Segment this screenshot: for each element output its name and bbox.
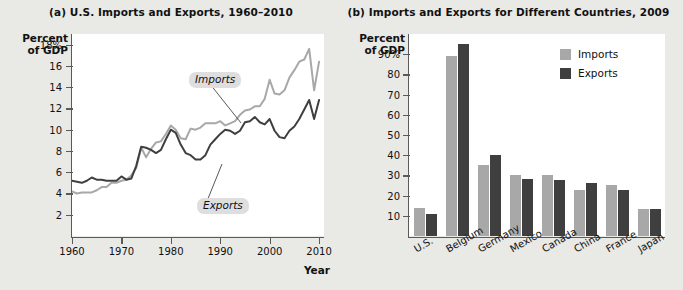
bar-exports-canada (554, 180, 565, 236)
panel-b-y-tick-label: 40 (348, 150, 400, 161)
bar-exports-china (586, 183, 597, 236)
panel-b-y-tick-label: 60 (348, 109, 400, 120)
panel-a-y-tick-label: 6 (14, 167, 62, 178)
panel-a-x-axis-line (71, 237, 324, 238)
panel-a-x-tick (270, 237, 271, 244)
panel-a-x-tick-label: 1960 (59, 246, 84, 257)
panel-a-y-tick-label: 10 (14, 124, 62, 135)
callout-exports: Exports (197, 198, 249, 214)
panel-b-y-tick (403, 54, 410, 55)
panel-a-x-tick-label: 1990 (208, 246, 233, 257)
panel-b-y-tick-label: 20 (348, 190, 400, 201)
panel-a-y-tick-label: 4 (14, 188, 62, 199)
legend-item-exports: Exports (560, 67, 618, 79)
panel-b-y-tick (403, 135, 410, 136)
panel-b-legend: ImportsExports (560, 48, 618, 86)
panel-b-y-tick-label: 30 (348, 170, 400, 181)
bar-exports-belgium (458, 44, 469, 236)
panel-a-x-tick-label: 2000 (257, 246, 282, 257)
panel-b-y-tick-label: 70 (348, 89, 400, 100)
panel-b-y-tick (403, 216, 410, 217)
panel-a-line-chart: (a) U.S. Imports and Exports, 1960–2010 … (0, 0, 342, 290)
panel-b-y-tick (403, 95, 410, 96)
panel-a-x-tick (319, 237, 320, 244)
bar-imports-belgium (446, 56, 457, 236)
panel-b-title: (b) Imports and Exports for Different Co… (338, 6, 679, 18)
panel-a-y-tick-label: 14 (14, 82, 62, 93)
panel-a-x-tick (220, 237, 221, 244)
panel-a-x-tick (72, 237, 73, 244)
panel-a-y-tick-label: 16 (14, 60, 62, 71)
panel-b-y-tick-label: 90% (348, 49, 400, 60)
panel-b-y-tick-label: 50 (348, 130, 400, 141)
bar-imports-france (606, 185, 617, 237)
panel-b-y-tick-label: 10 (348, 210, 400, 221)
panel-a-y-tick-label: 12 (14, 103, 62, 114)
panel-b-y-tick (403, 74, 410, 75)
panel-b-y-tick (403, 155, 410, 156)
panel-a-x-tick (171, 237, 172, 244)
bar-exports-mexico (522, 179, 533, 236)
panel-a-x-tick-label: 1980 (158, 246, 183, 257)
panel-a-y-tick-label: 8 (14, 145, 62, 156)
bar-exports-us (426, 214, 437, 236)
panel-a-title: (a) U.S. Imports and Exports, 1960–2010 (0, 6, 342, 18)
bar-imports-japan (638, 209, 649, 236)
panel-b-y-tick (403, 175, 410, 176)
bar-exports-france (618, 190, 629, 236)
panel-a-x-tick (121, 237, 122, 244)
legend-swatch-imports (560, 49, 571, 60)
panel-b-plot-area (409, 34, 665, 236)
panel-b-y-tick (403, 196, 410, 197)
panel-a-x-axis-label: Year (304, 264, 330, 276)
legend-label-exports: Exports (578, 67, 618, 79)
bar-imports-canada (542, 175, 553, 236)
panel-a-y-tick-label: 2 (14, 209, 62, 220)
panel-b-y-tick-label: 80 (348, 69, 400, 80)
panel-a-x-tick-label: 2010 (306, 246, 331, 257)
legend-label-imports: Imports (578, 48, 618, 60)
bar-exports-germany (490, 155, 501, 236)
panel-b-y-tick (403, 115, 410, 116)
legend-swatch-exports (560, 68, 571, 79)
legend-item-imports: Imports (560, 48, 618, 60)
bar-imports-us (414, 208, 425, 236)
panel-a-x-tick-label: 1970 (109, 246, 134, 257)
panel-a-y-tick-label: 18% (14, 39, 62, 50)
callout-imports: Imports (189, 72, 241, 88)
